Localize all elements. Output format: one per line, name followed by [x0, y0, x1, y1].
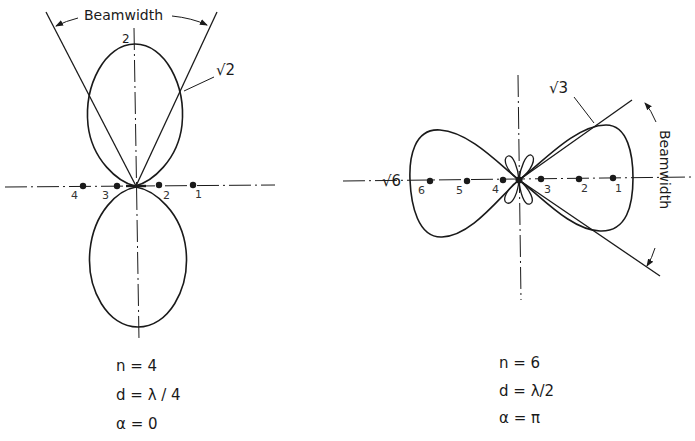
left-element-2: [156, 182, 162, 188]
right-element-3: [538, 176, 544, 182]
left-beamwidth-label: Beamwidth: [84, 7, 163, 23]
right-center-junction: [516, 177, 523, 184]
right-half-power-label: √3: [549, 79, 568, 97]
left-labels: Beamwidth 2 √2 4 3 2 1: [71, 7, 235, 202]
right-side-lobe-ne: [519, 155, 534, 180]
left-element-label-2: 2: [163, 189, 170, 202]
right-beamwidth-line-lower: [519, 180, 660, 276]
right-peak-label: √6: [382, 172, 401, 190]
antenna-patterns-figure: Beamwidth 2 √2 4 3 2 1: [0, 0, 695, 441]
right-beamwidth-arrow-upper: [645, 103, 656, 122]
left-param-d: d = λ / 4: [116, 388, 181, 403]
left-element-4: [80, 183, 86, 189]
right-param-alpha: α = π: [499, 411, 540, 426]
right-element-1: [610, 175, 616, 181]
left-beamwidth-arrow-right: [172, 16, 207, 25]
right-side-lobe-se: [519, 180, 532, 204]
right-side-lobe-nw: [505, 156, 519, 180]
left-half-power-leader: [184, 77, 214, 91]
left-param-alpha: α = 0: [116, 417, 158, 432]
left-half-power-label: √2: [216, 61, 235, 79]
left-peak-label: 2: [122, 32, 130, 46]
right-element-6: [427, 178, 433, 184]
right-lobe-west: [410, 130, 519, 237]
right-param-n: n = 6: [499, 356, 540, 371]
left-param-n: n = 4: [116, 359, 157, 374]
right-element-4: [500, 177, 506, 183]
left-element-3: [114, 183, 120, 189]
right-side-lobe-sw: [505, 180, 519, 203]
right-element-5: [464, 178, 470, 184]
left-element-label-4: 4: [71, 189, 78, 202]
right-element-label-5: 5: [456, 184, 463, 197]
left-beamwidth-line-right: [136, 12, 217, 186]
right-element-label-4: 4: [492, 183, 499, 196]
right-element-label-2: 2: [581, 182, 588, 195]
right-beamwidth-label: Beamwidth: [657, 130, 673, 209]
left-element-label-1: 1: [195, 188, 202, 201]
right-beamwidth-arrow-lower: [647, 248, 655, 266]
right-half-power-leader: [574, 97, 594, 123]
right-beamwidth-line-upper: [519, 100, 632, 180]
right-element-label-3: 3: [544, 183, 551, 196]
right-param-d: d = λ/2: [499, 384, 554, 399]
right-element-label-6: 6: [418, 184, 425, 197]
left-beamwidth-arrow-left: [56, 18, 78, 26]
right-element-label-1: 1: [615, 182, 622, 195]
left-element-label-3: 3: [102, 189, 109, 202]
